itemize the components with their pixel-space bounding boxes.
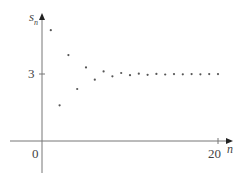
data-point <box>208 73 210 75</box>
data-points <box>50 29 219 106</box>
x-axis-label: n <box>227 143 233 155</box>
data-point <box>147 74 149 76</box>
x-tick-label: 20 <box>208 147 221 160</box>
data-point <box>199 73 201 75</box>
y-tick-label: 3 <box>28 67 35 80</box>
y-axis-label-subscript: n <box>34 18 38 27</box>
data-point <box>103 70 105 72</box>
data-point <box>164 73 166 75</box>
data-point <box>67 54 69 56</box>
data-point <box>50 29 52 31</box>
data-point <box>129 74 131 76</box>
data-point <box>85 66 87 68</box>
data-point <box>182 73 184 75</box>
data-point <box>111 75 113 77</box>
data-point <box>76 88 78 90</box>
data-point <box>59 104 61 106</box>
origin-label: 0 <box>32 147 39 160</box>
data-point <box>155 73 157 75</box>
data-point <box>138 73 140 75</box>
data-point <box>191 73 193 75</box>
data-point <box>94 79 96 81</box>
data-point <box>173 73 175 75</box>
y-axis-arrow-icon <box>39 13 45 20</box>
data-point <box>120 72 122 74</box>
data-point <box>217 73 219 75</box>
y-axis-label: sn <box>29 10 38 27</box>
